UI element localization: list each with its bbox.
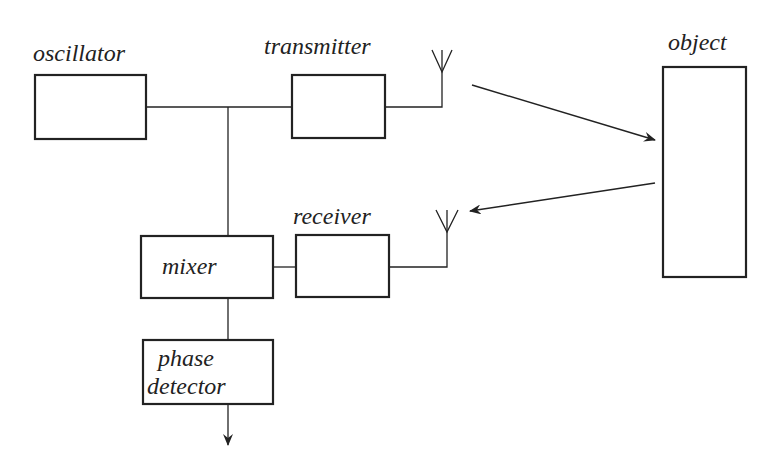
phase-detector-label-line2: detector bbox=[147, 373, 226, 399]
phase-detector-label-line1: phase bbox=[156, 345, 214, 371]
radar-block-diagram: oscillator transmitter object receiver m… bbox=[0, 0, 769, 466]
reflected-signal-arrow bbox=[470, 183, 655, 211]
transmitter-block bbox=[292, 75, 385, 138]
wire-rx-antenna bbox=[389, 232, 447, 267]
mixer-label: mixer bbox=[162, 253, 217, 279]
object-block bbox=[663, 67, 746, 277]
object-label: object bbox=[668, 29, 728, 55]
transmit-signal-arrow bbox=[472, 85, 655, 140]
receiver-label: receiver bbox=[293, 203, 371, 229]
transmitter-label: transmitter bbox=[264, 33, 371, 59]
wire-tx-antenna bbox=[385, 72, 442, 107]
oscillator-block bbox=[35, 75, 146, 139]
oscillator-label: oscillator bbox=[33, 40, 126, 66]
receiver-block bbox=[296, 235, 389, 297]
